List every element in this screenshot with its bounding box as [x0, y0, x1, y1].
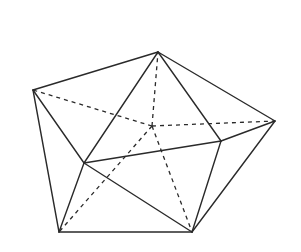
- visible-edges: [33, 52, 275, 232]
- hidden-edge-OA: [152, 52, 158, 126]
- edge-EG: [84, 163, 192, 232]
- hidden-edge-OG: [152, 126, 192, 232]
- hidden-edge-OC: [152, 121, 275, 126]
- edge-BF: [33, 90, 59, 232]
- edge-EF: [59, 163, 84, 232]
- edge-BE: [33, 90, 84, 163]
- edge-CG: [192, 121, 275, 232]
- hidden-edge-OB: [33, 90, 152, 126]
- edge-AD: [158, 52, 221, 141]
- polyhedron-diagram: [0, 0, 301, 252]
- edge-DG: [192, 141, 221, 232]
- edge-AE: [84, 52, 158, 163]
- edge-DE: [84, 141, 221, 163]
- edge-AC: [158, 52, 275, 121]
- edge-AB: [33, 52, 158, 90]
- hidden-edge-OF: [59, 126, 152, 232]
